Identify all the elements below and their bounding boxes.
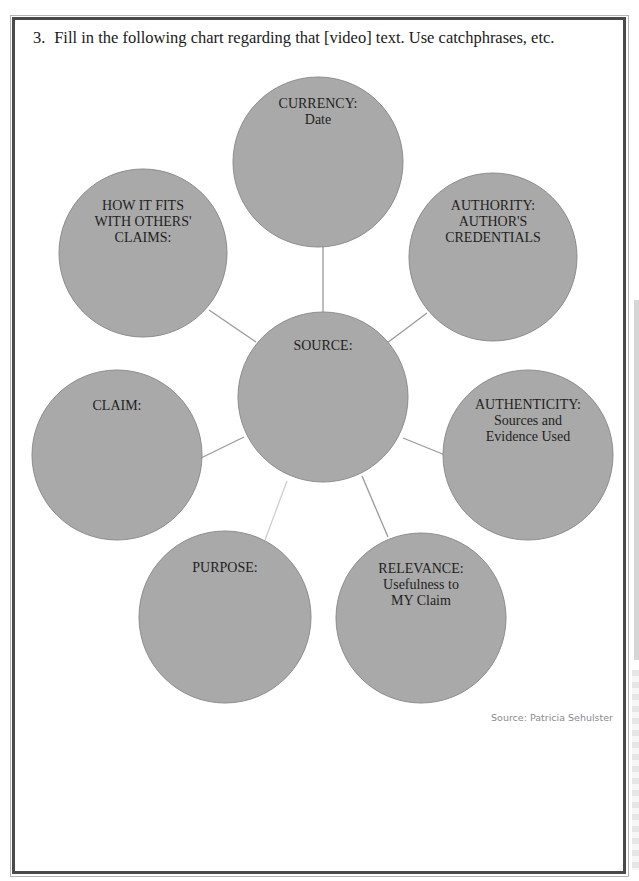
relevance-title: RELEVANCE: — [378, 561, 463, 577]
node-currency: CURRENCY: Date — [279, 96, 358, 128]
node-claim: CLAIM: — [93, 398, 142, 414]
authenticity-title: AUTHENTICITY: — [475, 397, 581, 413]
connector-fits — [209, 310, 256, 342]
authenticity-line3: Evidence Used — [475, 429, 581, 445]
source-title: SOURCE: — [293, 338, 352, 354]
authenticity-line2: Sources and — [475, 413, 581, 429]
node-authority: AUTHORITY: AUTHOR'S CREDENTIALS — [445, 198, 541, 246]
claim-title: CLAIM: — [93, 398, 142, 414]
connector-authenticity — [403, 438, 445, 455]
relevance-line2: Usefulness to — [378, 577, 463, 593]
circle-purpose — [139, 531, 311, 703]
node-purpose: PURPOSE: — [192, 560, 257, 576]
authority-line2: AUTHOR'S — [445, 214, 541, 230]
connector-authority — [387, 313, 427, 343]
currency-title: CURRENCY: — [279, 96, 358, 112]
circle-authenticity — [443, 370, 613, 540]
connector-relevance — [362, 476, 388, 537]
circle-fits — [59, 169, 227, 337]
circle-relevance — [336, 533, 506, 703]
relevance-line3: MY Claim — [378, 593, 463, 609]
node-fits: HOW IT FITS WITH OTHERS' CLAIMS: — [94, 198, 191, 246]
authority-line3: CREDENTIALS — [445, 230, 541, 246]
node-relevance: RELEVANCE: Usefulness to MY Claim — [378, 561, 463, 609]
connector-claim — [201, 437, 244, 458]
image-credit: Source: Patricia Sehulster — [491, 712, 613, 723]
node-authenticity: AUTHENTICITY: Sources and Evidence Used — [475, 397, 581, 445]
connector-purpose — [265, 481, 287, 540]
circles — [32, 77, 613, 703]
node-source: SOURCE: — [293, 338, 352, 354]
purpose-title: PURPOSE: — [192, 560, 257, 576]
circle-claim — [32, 370, 202, 540]
authority-title: AUTHORITY: — [445, 198, 541, 214]
fits-line2: WITH OTHERS' — [94, 214, 191, 230]
currency-subtitle: Date — [279, 112, 358, 128]
fits-line3: CLAIMS: — [94, 230, 191, 246]
fits-line1: HOW IT FITS — [94, 198, 191, 214]
